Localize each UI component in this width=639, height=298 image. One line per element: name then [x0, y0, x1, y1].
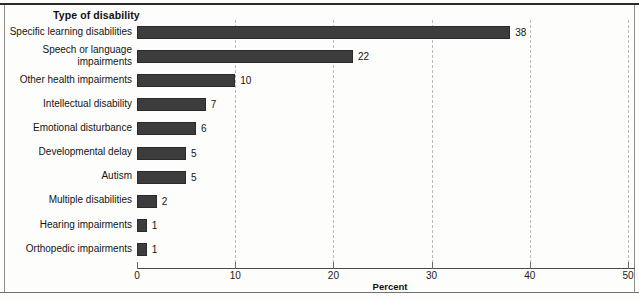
category-label: Autism — [0, 170, 132, 182]
bar-value-label: 22 — [358, 51, 369, 62]
x-tick-30 — [432, 262, 433, 269]
bar — [137, 26, 510, 39]
x-tick-40 — [530, 262, 531, 269]
gridline-40 — [530, 20, 531, 268]
category-label: Specific learning disabilities — [0, 26, 132, 38]
x-tick-label-20: 20 — [328, 270, 339, 281]
x-tick-label-30: 30 — [426, 270, 437, 281]
bar-value-label: 1 — [152, 220, 158, 231]
x-tick-label-10: 10 — [230, 270, 241, 281]
bar — [137, 147, 186, 160]
frame-right-rule — [634, 5, 635, 293]
x-axis-label: Percent — [373, 281, 408, 292]
bar-chart-figure: Type of disability Specific learning dis… — [0, 0, 639, 298]
x-tick-50 — [628, 262, 629, 269]
bar-value-label: 38 — [515, 27, 526, 38]
x-tick-20 — [333, 262, 334, 269]
gridline-50 — [628, 20, 629, 268]
bar — [137, 243, 147, 256]
category-label: Emotional disturbance — [0, 122, 132, 134]
bar — [137, 122, 196, 135]
bar — [137, 171, 186, 184]
category-label: Intellectual disability — [0, 98, 132, 110]
bar-value-label: 10 — [240, 75, 251, 86]
category-label: Other health impairments — [0, 74, 132, 86]
category-label: Speech or language impairments — [0, 44, 132, 67]
category-label: Multiple disabilities — [0, 194, 132, 206]
x-tick-10 — [235, 262, 236, 269]
gridline-30 — [432, 20, 433, 268]
bar-value-label: 1 — [152, 244, 158, 255]
plot-area: 3822107655211 — [137, 20, 628, 268]
bar-value-label: 2 — [162, 196, 168, 207]
bar — [137, 50, 353, 63]
bar — [137, 74, 235, 87]
category-label: Developmental delay — [0, 146, 132, 158]
bar-value-label: 7 — [211, 99, 217, 110]
bar-value-label: 5 — [191, 148, 197, 159]
bar-value-label: 6 — [201, 123, 207, 134]
x-axis-line — [137, 268, 635, 269]
bar — [137, 195, 157, 208]
category-label: Hearing impairments — [0, 219, 132, 231]
bar — [137, 98, 206, 111]
x-tick-label-0: 0 — [134, 270, 140, 281]
category-label: Orthopedic impairments — [0, 243, 132, 255]
x-tick-0 — [137, 262, 138, 269]
category-label-group: Specific learning disabilitiesSpeech or … — [0, 0, 132, 298]
bar-value-label: 5 — [191, 172, 197, 183]
bar — [137, 219, 147, 232]
x-tick-label-50: 50 — [622, 270, 633, 281]
x-tick-label-40: 40 — [524, 270, 535, 281]
